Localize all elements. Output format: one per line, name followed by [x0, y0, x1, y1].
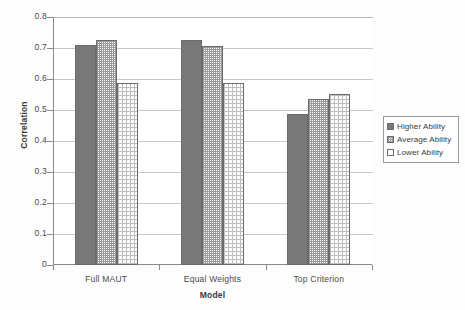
x-tick-mark — [266, 265, 267, 270]
bar — [202, 46, 223, 265]
x-tick-mark — [53, 265, 54, 270]
x-tick-label: Top Criterion — [266, 274, 372, 284]
x-tick-label: Full MAUT — [53, 274, 159, 284]
bar — [308, 99, 329, 265]
y-tick-label: 0.7 — [15, 42, 47, 52]
legend-swatch-icon — [387, 136, 394, 143]
bar-chart-figure: Correlation 00.10.20.30.40.50.60.70.8 Fu… — [0, 0, 465, 310]
legend-label: Higher Ability — [397, 122, 445, 131]
bar — [329, 94, 350, 265]
legend-swatch-icon — [387, 149, 394, 156]
y-tick-label: 0.6 — [15, 73, 47, 83]
bar — [96, 40, 117, 265]
bar — [287, 114, 308, 265]
y-tick-label: 0.1 — [15, 228, 47, 238]
bar — [181, 40, 202, 265]
bar-group — [53, 17, 159, 265]
x-axis-title: Model — [53, 290, 372, 300]
legend-item: Lower Ability — [387, 146, 456, 158]
y-axis-title: Correlation — [19, 75, 29, 175]
x-tick-mark — [159, 265, 160, 270]
bar — [75, 45, 96, 265]
bars-layer — [53, 17, 372, 265]
bar-group — [266, 17, 372, 265]
legend-swatch-icon — [387, 123, 394, 130]
y-tick-label: 0.8 — [15, 11, 47, 21]
legend-label: Average Ability — [397, 135, 451, 144]
y-tick-label: 0.5 — [15, 104, 47, 114]
bar — [223, 83, 244, 265]
bar-group — [159, 17, 265, 265]
legend-item: Higher Ability — [387, 120, 456, 132]
y-tick-label: 0 — [15, 259, 47, 269]
legend-item: Average Ability — [387, 133, 456, 145]
y-tick-label: 0.4 — [15, 135, 47, 145]
legend: Higher AbilityAverage AbilityLower Abili… — [383, 116, 459, 163]
x-tick-label: Equal Weights — [159, 274, 265, 284]
bar — [117, 83, 138, 265]
y-tick-label: 0.3 — [15, 166, 47, 176]
legend-label: Lower Ability — [397, 148, 443, 157]
y-tick-label: 0.2 — [15, 197, 47, 207]
x-tick-mark — [372, 265, 373, 270]
